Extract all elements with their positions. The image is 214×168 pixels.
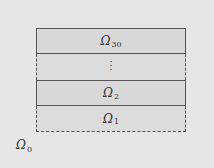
layer-subscript: 30	[111, 40, 121, 49]
layer-omega-2: Ω2	[36, 80, 186, 106]
outer-subscript: 0	[27, 145, 32, 154]
layer-subscript: 1	[114, 117, 119, 126]
outer-domain-label: Ω0	[16, 138, 32, 152]
layer-omega-30: Ω30	[36, 28, 186, 54]
layer-symbol: Ω	[103, 86, 113, 100]
layer-subscript: 2	[114, 92, 119, 101]
layer-symbol: Ω	[100, 34, 110, 48]
outer-symbol: Ω	[16, 138, 26, 152]
layer-symbol: Ω	[103, 112, 113, 126]
layer-stack: Ω30 ··· Ω2 Ω1	[36, 28, 186, 132]
layer-ellipsis: ···	[36, 54, 186, 80]
layer-omega-1: Ω1	[36, 106, 186, 132]
vertical-dots-icon: ···	[109, 61, 113, 73]
